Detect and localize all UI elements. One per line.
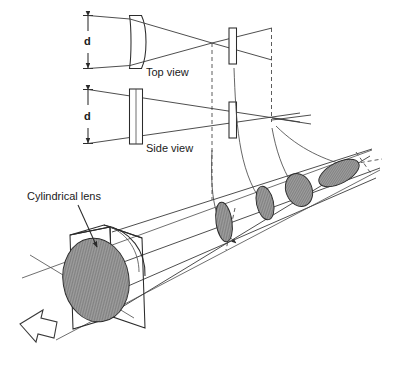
- cylindrical-lens-label: Cylindrical lens: [27, 190, 101, 202]
- optics-diagram-figure: d Top view: [0, 0, 407, 380]
- lens-aperture-ellipse: [57, 233, 135, 326]
- side-view-panel: d Side view: [83, 89, 311, 154]
- lens-top-edge: [70, 225, 142, 238]
- top-view-input-rays: [88, 16, 130, 69]
- top-view-label: Top view: [146, 66, 189, 78]
- dimension-label-side: d: [84, 110, 91, 122]
- beam-cross-section-1: [213, 201, 234, 243]
- top-view-diverging-rays: [212, 28, 272, 60]
- mapping-arrows-group: [212, 68, 348, 243]
- side-view-slit-aperture: [229, 102, 237, 138]
- side-view-label: Side view: [146, 142, 193, 154]
- cylindrical-lens-block: [57, 225, 145, 329]
- mapping-arrow-2: [234, 68, 262, 202]
- dimension-label-top: d: [84, 35, 91, 47]
- diagram-canvas: d Top view: [0, 0, 407, 380]
- beam-cross-section-3: [281, 169, 318, 210]
- beam-cross-section-2: [253, 185, 277, 222]
- block-arrow-icon: [20, 310, 57, 342]
- side-view-rays: [88, 90, 300, 144]
- top-view-slit-aperture: [229, 28, 237, 64]
- top-view-panel: d Top view: [83, 16, 272, 201]
- top-view-lens: [130, 16, 147, 69]
